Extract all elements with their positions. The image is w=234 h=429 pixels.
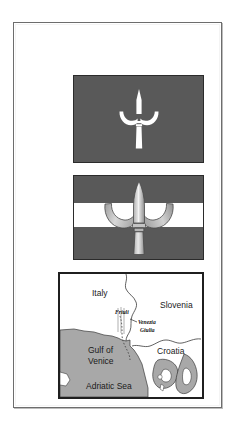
halberd-emblem-shaded	[100, 180, 178, 256]
flag-trieste-tricolor	[73, 175, 204, 260]
map-label-slovenia: Slovenia	[160, 300, 193, 310]
map-label-adriatic-sea: Adriatic Sea	[86, 381, 132, 391]
map-label-friuli: Friuli	[115, 309, 129, 315]
page-frame: Italy Friuli Slovenia Venezia Giulia Gul…	[13, 22, 222, 408]
map-adriatic-region: Italy Friuli Slovenia Venezia Giulia Gul…	[58, 272, 204, 399]
map-label-giulia: Giulia	[140, 327, 155, 333]
flag-trieste-plain	[73, 75, 204, 163]
map-label-venice: Venice	[88, 356, 114, 366]
map-label-italy: Italy	[92, 288, 108, 298]
map-label-croatia: Croatia	[157, 346, 185, 356]
map-label-venezia: Venezia	[138, 319, 156, 325]
map-label-gulf-of: Gulf of	[88, 345, 114, 355]
halberd-emblem-white	[116, 88, 162, 150]
